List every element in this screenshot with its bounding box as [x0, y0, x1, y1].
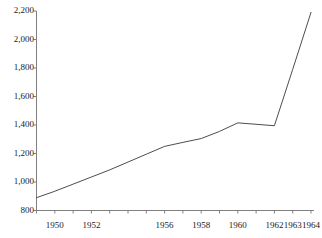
line-chart: 8001,0001,2001,4001,6001,8002,0002,200 1… — [0, 0, 322, 238]
x-axis-tick-label: 1964 — [302, 221, 320, 230]
x-axis-tick-label: 1952 — [82, 221, 100, 230]
x-axis-tick-label: 1963 — [284, 221, 302, 230]
x-axis-tick-label: 1956 — [156, 221, 174, 230]
x-axis-tick-label: 1950 — [46, 221, 64, 230]
x-axis-tick-label: 1962 — [265, 221, 283, 230]
x-axis-tick-label: 1958 — [192, 221, 210, 230]
x-axis-tick-label: 1960 — [229, 221, 247, 230]
x-axis-tick-labels: 19501952195619581960196219631964 — [0, 0, 322, 238]
